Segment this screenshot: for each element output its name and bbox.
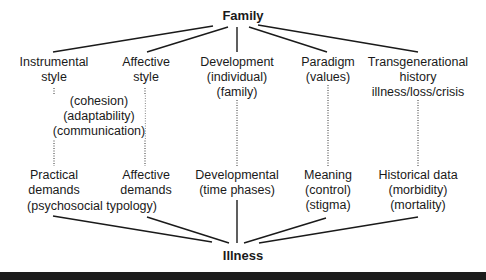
family-dimensions-annotation: (cohesion) (adaptability) (communication… — [53, 94, 145, 139]
practical-demands-node: Practical demands — [28, 168, 79, 198]
node-line: Historical data — [378, 168, 457, 183]
node-line: Instrumental — [20, 55, 89, 70]
instrumental-style-node: Instrumental style — [20, 55, 89, 85]
node-line: (individual) — [200, 70, 274, 85]
node-line: Paradigm — [301, 55, 355, 70]
node-line: demands — [28, 183, 79, 198]
annotation-line: (cohesion) — [53, 94, 145, 109]
node-line: (family) — [200, 85, 274, 100]
node-line: Affective — [122, 55, 170, 70]
node-line: Transgenerational — [368, 55, 468, 70]
node-line: style — [20, 70, 89, 85]
node-line: Meaning — [304, 168, 352, 183]
node-line: history — [368, 70, 468, 85]
node-line: (mortality) — [378, 198, 457, 213]
affective-demands-node: Affective demands — [120, 168, 171, 198]
node-line: illness/loss/crisis — [368, 85, 468, 100]
connector-lines — [0, 0, 486, 280]
node-line: (stigma) — [304, 198, 352, 213]
annotation-line: (adaptability) — [53, 109, 145, 124]
node-line: (values) — [301, 70, 355, 85]
node-line: style — [122, 70, 170, 85]
node-line: (time phases) — [195, 183, 278, 198]
paradigm-node: Paradigm (values) — [301, 55, 355, 85]
family-connectors — [53, 25, 418, 52]
development-node: Development (individual) (family) — [200, 55, 274, 100]
node-line: (morbidity) — [378, 183, 457, 198]
affective-style-node: Affective style — [122, 55, 170, 85]
psychosocial-typology-annotation: (psychosocial typology) — [27, 199, 157, 214]
meaning-node: Meaning (control) (stigma) — [304, 168, 352, 213]
node-line: demands — [120, 183, 171, 198]
developmental-node: Developmental (time phases) — [195, 168, 278, 198]
bottom-border-bar — [0, 272, 486, 280]
transgenerational-history-node: Transgenerational history illness/loss/c… — [368, 55, 468, 100]
node-line: Developmental — [195, 168, 278, 183]
historical-data-node: Historical data (morbidity) (mortality) — [378, 168, 457, 213]
illness-node: Illness — [223, 248, 263, 263]
node-line: Affective — [120, 168, 171, 183]
node-line: (control) — [304, 183, 352, 198]
node-line: Practical — [28, 168, 79, 183]
node-line: Development — [200, 55, 274, 70]
annotation-line: (communication) — [53, 124, 145, 139]
family-illness-diagram: Family Instrumental style Affective styl… — [0, 0, 486, 280]
family-node: Family — [222, 8, 263, 23]
